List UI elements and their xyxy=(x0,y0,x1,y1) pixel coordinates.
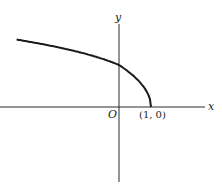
point-label: (1, 0) xyxy=(139,109,166,120)
curve-line xyxy=(17,40,151,107)
origin-label: O xyxy=(108,108,117,121)
y-axis-label: y xyxy=(114,11,122,24)
graph: x y O (1, 0) xyxy=(0,0,223,188)
x-axis-label: x xyxy=(208,100,215,113)
